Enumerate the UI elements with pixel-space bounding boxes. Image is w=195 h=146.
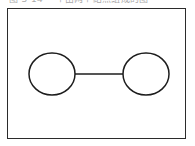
graph-drawing: [8, 9, 187, 140]
screenshot-root: 图 3-14 一个由两个结点组成的图: [0, 0, 195, 146]
graph-node-left: [29, 53, 75, 95]
graph-node-right: [123, 53, 169, 95]
diagram-canvas: [8, 9, 187, 140]
figure-caption-strip: 图 3-14 一个由两个结点组成的图: [0, 0, 195, 7]
figure-frame: [7, 8, 186, 139]
figure-caption: 图 3-14 一个由两个结点组成的图: [9, 0, 149, 5]
